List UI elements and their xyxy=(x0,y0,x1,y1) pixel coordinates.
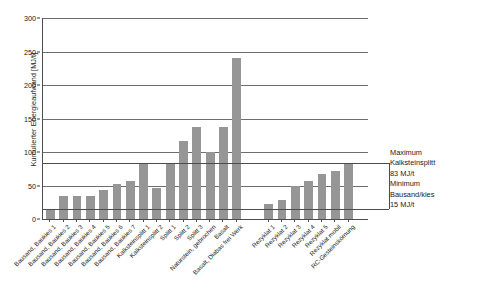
y-tick-label-300: 300 xyxy=(6,14,36,23)
bar-series xyxy=(43,18,368,219)
x-axis-labels: Bausand, Baukies 1Bausand, Baukies 2Baus… xyxy=(42,219,382,300)
bar xyxy=(219,127,228,219)
x-tick-mark xyxy=(222,219,223,222)
x-tick-mark xyxy=(143,219,144,222)
x-tick-mark xyxy=(129,219,130,222)
bar xyxy=(113,184,122,220)
y-tick-label-50: 50 xyxy=(6,181,36,190)
x-tick-mark xyxy=(308,219,309,222)
bar xyxy=(344,163,353,219)
x-tick-mark xyxy=(334,219,335,222)
bar xyxy=(46,209,55,219)
bar xyxy=(59,196,68,219)
x-tick-mark xyxy=(236,219,237,222)
bar xyxy=(304,181,313,219)
x-tick-mark xyxy=(103,219,104,222)
y-tick-mark-50 xyxy=(37,185,40,186)
x-tick-mark xyxy=(76,219,77,222)
x-tick-mark xyxy=(321,219,322,222)
y-tick-mark-100 xyxy=(37,152,40,153)
x-tick-mark xyxy=(281,219,282,222)
y-tick-mark-150 xyxy=(37,118,40,119)
y-tick-label-250: 250 xyxy=(6,47,36,56)
y-tick-label-150: 150 xyxy=(6,114,36,123)
y-tick-label-200: 200 xyxy=(6,81,36,90)
bar xyxy=(291,186,300,220)
bar xyxy=(318,174,327,219)
x-tick-mark xyxy=(116,219,117,222)
x-tick-mark xyxy=(89,219,90,222)
bar xyxy=(139,163,148,219)
bar xyxy=(264,204,273,219)
annotation-min-line2: Bausand/kies xyxy=(390,190,482,200)
x-tick-mark xyxy=(348,219,349,222)
bar xyxy=(179,141,188,219)
annotation-min-line3: 15 MJ/t xyxy=(390,200,482,210)
y-tick-mark-0 xyxy=(37,219,40,220)
y-tick-label-100: 100 xyxy=(6,148,36,157)
bar xyxy=(166,163,175,219)
x-tick-mark xyxy=(196,219,197,222)
annotation-min-line1: Minimum xyxy=(390,179,482,189)
bar xyxy=(192,127,201,219)
x-tick-mark xyxy=(169,219,170,222)
bar xyxy=(99,190,108,219)
x-tick-mark xyxy=(49,219,50,222)
x-tick-mark xyxy=(294,219,295,222)
y-tick-mark-250 xyxy=(37,51,40,52)
annotation-max-line3: 83 MJ/t xyxy=(390,169,482,179)
bar xyxy=(73,196,82,219)
annotation-max-line2: Kalksteinsplitt xyxy=(390,158,482,168)
annotation-block: Maximum Kalksteinsplitt 83 MJ/t Minimum … xyxy=(390,148,482,210)
x-tick-mark xyxy=(209,219,210,222)
bar xyxy=(331,171,340,219)
y-tick-label-0: 0 xyxy=(6,215,36,224)
annotation-leader-min xyxy=(42,209,389,210)
x-tick-mark xyxy=(63,219,64,222)
bar xyxy=(86,196,95,219)
y-tick-mark-300 xyxy=(37,18,40,19)
x-tick-mark xyxy=(268,219,269,222)
bar-chart: Kumulierter Energieaufwand [MJ/t] 050100… xyxy=(0,0,482,300)
annotation-leader-max xyxy=(42,163,389,164)
bar xyxy=(232,58,241,219)
bar xyxy=(126,181,135,219)
annotation-max-line1: Maximum xyxy=(390,148,482,158)
bar xyxy=(152,188,161,219)
x-tick-mark xyxy=(183,219,184,222)
x-tick-mark xyxy=(156,219,157,222)
y-tick-mark-200 xyxy=(37,85,40,86)
plot-area xyxy=(42,18,368,220)
